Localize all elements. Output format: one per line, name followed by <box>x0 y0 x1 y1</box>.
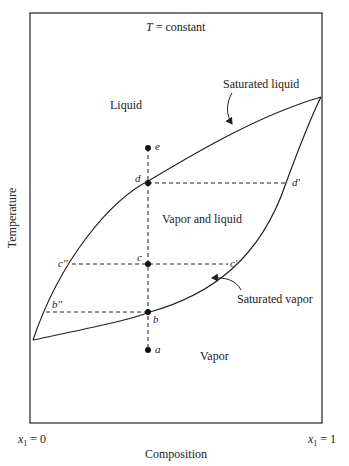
region-liquid: Liquid <box>110 98 142 112</box>
point-d <box>145 180 151 186</box>
x-axis-label: Composition <box>145 447 207 461</box>
label-a: a <box>155 343 161 355</box>
label-e: e <box>155 140 160 152</box>
label-d-prime: d' <box>292 176 301 188</box>
region-two-phase: Vapor and liquid <box>162 212 242 226</box>
title-rest: = constant <box>153 20 206 34</box>
x-min-rest: = 0 <box>27 432 46 446</box>
diagram-title: T = constant <box>146 20 206 34</box>
label-c-dprime: c'' <box>58 257 68 269</box>
y-axis-label: Temperature <box>5 188 19 248</box>
point-c <box>145 261 151 267</box>
label-c: c <box>137 251 142 263</box>
label-d: d <box>135 172 141 184</box>
saturated-vapor-label: Saturated vapor <box>237 292 313 306</box>
x-max-rest: = 1 <box>317 432 336 446</box>
region-vapor: Vapor <box>200 349 229 363</box>
label-b: b <box>153 313 159 325</box>
point-a <box>145 347 151 353</box>
point-b <box>145 309 151 315</box>
point-e <box>145 145 151 151</box>
saturated-liquid-label: Saturated liquid <box>223 77 299 91</box>
label-c-prime: c' <box>230 257 238 269</box>
saturated-vapor-arrow-icon <box>212 278 241 290</box>
phase-diagram: e d c b a d' c' c'' b'' Liquid Vapor and… <box>0 0 349 466</box>
x-max-label: x1 = 1 <box>307 432 336 448</box>
label-b-dprime: b'' <box>52 298 63 310</box>
x-min-label: x1 = 0 <box>17 432 46 448</box>
saturated-liquid-arrow-icon <box>228 93 233 124</box>
